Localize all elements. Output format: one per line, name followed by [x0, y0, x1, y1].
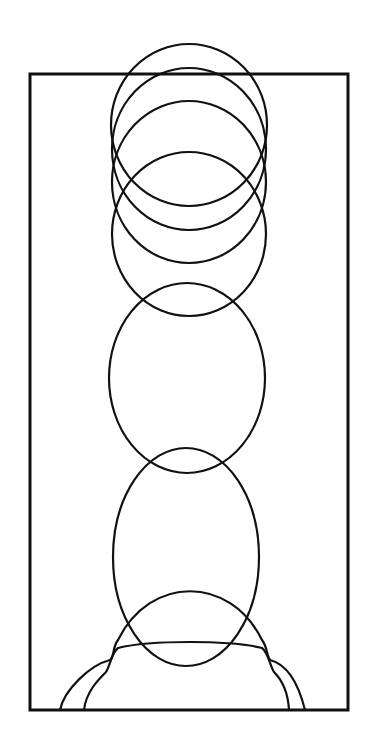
ellipse-5	[109, 283, 265, 473]
frame-rectangle	[30, 74, 348, 710]
ellipse-6	[113, 448, 259, 666]
diagram-canvas	[0, 0, 377, 753]
overlapping-ellipses-diagram	[0, 0, 377, 753]
arc-inner	[84, 642, 289, 710]
arc-outer	[60, 591, 305, 710]
circle-4	[112, 152, 266, 316]
